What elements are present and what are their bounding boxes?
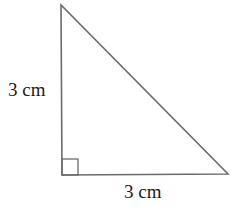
- triangle: [61, 5, 228, 175]
- left-side-label: 3 cm: [8, 79, 46, 100]
- right-angle-marker: [62, 159, 78, 175]
- bottom-side-label: 3 cm: [124, 181, 162, 202]
- right-triangle-diagram: 3 cm 3 cm: [0, 0, 242, 212]
